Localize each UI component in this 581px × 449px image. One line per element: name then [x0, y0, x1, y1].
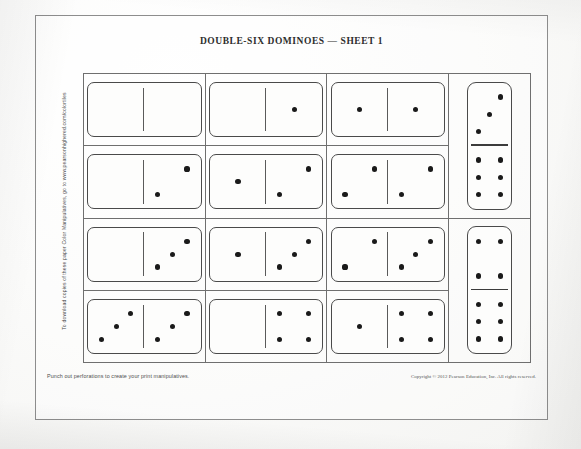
domino-tile-1-2[interactable]	[209, 154, 323, 209]
copyright-notice: Copyright © 2012 Pearson Education, Inc.…	[411, 374, 536, 379]
pip-empty	[498, 129, 503, 134]
pip-face-6	[468, 290, 511, 353]
pip-empty	[292, 166, 297, 171]
domino-cell-vertical[interactable]	[449, 219, 530, 363]
domino-half-left	[332, 228, 388, 281]
domino-tile-0-2[interactable]	[87, 154, 201, 209]
domino-half-right	[144, 300, 200, 353]
pip	[476, 302, 481, 307]
domino-tile-2-2[interactable]	[331, 154, 445, 209]
pip-empty	[399, 94, 404, 99]
pip-empty	[487, 336, 492, 341]
pip-empty	[372, 252, 377, 257]
pip-empty	[487, 157, 492, 162]
pip-empty	[128, 120, 133, 125]
pip	[114, 324, 119, 329]
domino-cell[interactable]	[206, 74, 328, 145]
pip-empty	[357, 264, 362, 269]
pip-empty	[99, 120, 104, 125]
domino-tile-3-6[interactable]	[467, 82, 512, 210]
domino-half-left	[332, 300, 388, 353]
pip-empty	[221, 324, 226, 329]
pip-empty	[99, 107, 104, 112]
pip-empty	[357, 166, 362, 171]
pip-empty	[99, 252, 104, 257]
pip	[306, 337, 311, 342]
domino-cell[interactable]	[327, 146, 448, 217]
domino-tile-0-3[interactable]	[87, 227, 201, 282]
pip-face-0	[210, 300, 266, 353]
pip-empty	[342, 239, 347, 244]
domino-tile-1-4[interactable]	[331, 299, 445, 354]
pip-empty	[99, 179, 104, 184]
pip-empty	[114, 311, 119, 316]
pip-empty	[399, 239, 404, 244]
pip-empty	[372, 107, 377, 112]
pip	[357, 107, 362, 112]
domino-tile-2-3[interactable]	[331, 227, 445, 282]
pip-empty	[277, 239, 282, 244]
pip-empty	[413, 337, 418, 342]
pip-empty	[221, 192, 226, 197]
pip	[476, 273, 481, 278]
pip	[277, 264, 282, 269]
domino-cell[interactable]	[327, 74, 448, 145]
pip-empty	[250, 311, 255, 316]
pip-empty	[342, 179, 347, 184]
domino-half-left	[332, 155, 388, 208]
pip-empty	[399, 179, 404, 184]
pip-empty	[99, 239, 104, 244]
pip-empty	[250, 252, 255, 257]
domino-cell[interactable]	[84, 219, 206, 290]
pip-empty	[170, 107, 175, 112]
pip	[277, 192, 282, 197]
pip-empty	[99, 192, 104, 197]
pip-empty	[155, 311, 160, 316]
pip-empty	[306, 107, 311, 112]
domino-half-left	[210, 83, 266, 136]
domino-cell[interactable]	[206, 146, 328, 217]
pip-empty	[114, 337, 119, 342]
domino-tile-0-0[interactable]	[87, 82, 201, 137]
pip-empty	[357, 252, 362, 257]
pip-empty	[428, 94, 433, 99]
pip-empty	[399, 120, 404, 125]
domino-tile-0-1[interactable]	[209, 82, 323, 137]
pip-empty	[170, 94, 175, 99]
domino-cell[interactable]	[206, 219, 328, 290]
pip-empty	[487, 302, 492, 307]
pip-empty	[413, 311, 418, 316]
domino-tile-0-4[interactable]	[209, 299, 323, 354]
pip	[476, 239, 481, 244]
pip	[306, 239, 311, 244]
pip-empty	[277, 166, 282, 171]
domino-tile-1-3[interactable]	[209, 227, 323, 282]
pip	[498, 192, 503, 197]
domino-cell[interactable]	[327, 219, 448, 290]
pip	[498, 273, 503, 278]
pip-empty	[413, 94, 418, 99]
domino-tile-1-1[interactable]	[331, 82, 445, 137]
domino-tile-4-6[interactable]	[467, 226, 512, 354]
domino-cell-vertical[interactable]	[449, 74, 530, 219]
pip-face-4	[266, 300, 322, 353]
pip-empty	[184, 179, 189, 184]
pip-empty	[357, 311, 362, 316]
pip-empty	[399, 252, 404, 257]
pip-empty	[306, 179, 311, 184]
domino-tile-3-3[interactable]	[87, 299, 201, 354]
domino-cell[interactable]	[84, 291, 206, 362]
domino-cell[interactable]	[327, 291, 448, 362]
pip-empty	[155, 94, 160, 99]
pip-face-1	[266, 83, 322, 136]
pip-face-2	[332, 155, 388, 208]
pip	[99, 337, 104, 342]
domino-cell[interactable]	[84, 74, 206, 145]
domino-cell[interactable]	[206, 291, 328, 362]
pip-face-2	[332, 228, 388, 281]
pip	[498, 336, 503, 341]
pip	[235, 179, 240, 184]
pip	[428, 239, 433, 244]
domino-cell[interactable]	[84, 146, 206, 217]
pip	[277, 337, 282, 342]
